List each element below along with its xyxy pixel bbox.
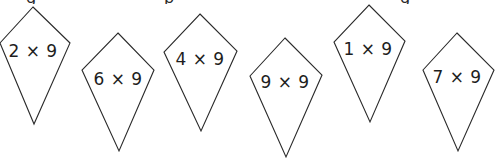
- kite-label-4: 9 × 9: [260, 72, 309, 92]
- kite-shape-4: [250, 38, 322, 157]
- kite-shape-2: [82, 33, 154, 151]
- kite-label-3: 4 × 9: [175, 49, 224, 69]
- kite-shape-6: [423, 33, 494, 151]
- kite-worksheet: g p g 2 × 9 6 × 9 4 × 9 9 × 9 1 × 9 7 × …: [0, 0, 496, 159]
- kite-label-5: 1 × 9: [343, 39, 392, 59]
- kite-label-2: 6 × 9: [93, 69, 142, 89]
- kite-label-6: 7 × 9: [432, 67, 481, 87]
- kite-shape-5: [334, 5, 405, 122]
- kite-shape-1: [0, 7, 70, 124]
- kite-shape-3: [164, 14, 237, 131]
- kite-label-1: 2 × 9: [8, 41, 57, 61]
- kites-drawing: [0, 0, 496, 159]
